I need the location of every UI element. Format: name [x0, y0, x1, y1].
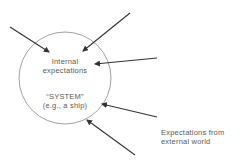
arrow-2: [83, 13, 130, 51]
external-line-2: external world: [161, 137, 224, 146]
system-line-1: “SYSTEM”: [35, 92, 95, 101]
system-line-2: (e.g., a ship): [35, 101, 95, 110]
system-label: “SYSTEM” (e.g., a ship): [35, 92, 95, 110]
arrow-5: [87, 120, 135, 155]
external-line-1: Expectations from: [161, 128, 224, 137]
internal-line-2: expectations: [35, 66, 95, 75]
internal-expectations-label: Internal expectations: [35, 57, 95, 75]
external-expectations-label: Expectations from external world: [161, 128, 224, 146]
arrow-4: [102, 104, 157, 117]
arrow-3: [95, 58, 157, 64]
internal-line-1: Internal: [35, 57, 95, 66]
system-circle: [19, 32, 111, 124]
